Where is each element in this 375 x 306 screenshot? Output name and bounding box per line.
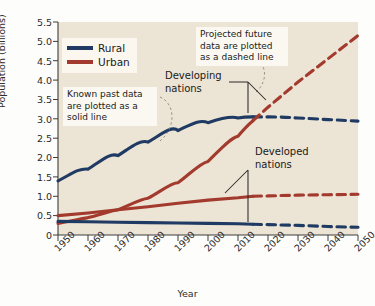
annotation-line: Projected future (200, 29, 284, 41)
annotation-line: Developed (255, 146, 309, 159)
solid-segment (58, 196, 253, 215)
annotation-line: data are plotted (200, 41, 284, 53)
annotation-developing-nations: Developing nations (165, 70, 222, 95)
legend-item-rural: Rural (67, 41, 130, 55)
annotation-line: Known past data (67, 89, 153, 101)
annotation-line: as a dashed line (200, 52, 284, 64)
dashed-segment (253, 117, 358, 121)
legend-label-rural: Rural (98, 42, 125, 54)
series-rural-developed (58, 221, 358, 227)
series-rural-developing (58, 117, 358, 181)
legend: Rural Urban (62, 38, 137, 73)
solid-segment (58, 221, 253, 224)
legend-swatch-urban (67, 60, 93, 64)
annotation-line: are plotted as a (67, 101, 153, 113)
solid-segment (58, 117, 253, 181)
legend-item-urban: Urban (67, 55, 130, 69)
annotation-developed-nations: Developed nations (255, 146, 309, 171)
legend-swatch-rural (67, 46, 93, 50)
annotation-known-past-data: Known past data are plotted as a solid l… (63, 87, 157, 126)
dashed-segment (253, 194, 358, 196)
annotation-line: nations (255, 159, 309, 172)
series-urban-developed (58, 194, 358, 215)
annotation-line: solid line (67, 112, 153, 124)
annotation-projected-future-data: Projected future data are plotted as a d… (196, 27, 288, 66)
annotation-line: nations (165, 83, 222, 96)
dashed-segment (253, 224, 358, 227)
chart-svg (0, 0, 375, 306)
population-chart-figure: Population (billions) Year 5.5 5.0 4.5 4… (0, 0, 375, 306)
annotation-line: Developing (165, 70, 222, 83)
legend-label-urban: Urban (98, 56, 130, 68)
